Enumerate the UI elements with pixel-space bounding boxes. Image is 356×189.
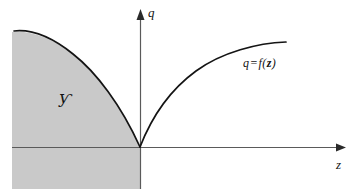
figure-canvas: [0, 0, 356, 189]
z-axis-label: z: [336, 158, 341, 171]
q-axis-label: q: [148, 6, 155, 19]
q-axis-arrowhead: [137, 9, 145, 20]
curve-label-close-paren: ): [272, 56, 276, 70]
math-figure: q z ƴ q=f(z): [0, 0, 356, 189]
z-axis-arrowhead: [336, 144, 346, 152]
region-label: ƴ: [59, 89, 72, 106]
curve-label-equals: =: [249, 56, 258, 70]
function-curve-label: q=f(z): [243, 57, 276, 69]
